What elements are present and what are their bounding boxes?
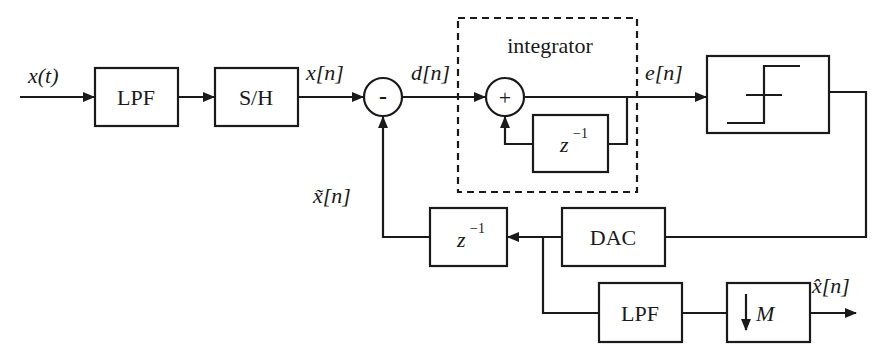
integrator-group: integrator + z −1 bbox=[458, 18, 637, 192]
decimator-block: M bbox=[727, 283, 810, 342]
integrator-delay-block bbox=[533, 115, 608, 172]
lpf-input-block: LPF bbox=[95, 68, 178, 126]
sample-hold-block: S/H bbox=[215, 68, 298, 126]
feedback-delay-base: z bbox=[456, 227, 466, 252]
delta-sigma-diagram: x(t) LPF S/H x[n] - d[n] integrator + z … bbox=[0, 0, 883, 360]
label-x-hat-n: x̂[n] bbox=[811, 273, 850, 298]
dac-label: DAC bbox=[590, 225, 636, 250]
label-d-n: d[n] bbox=[411, 60, 450, 85]
integrator-label: integrator bbox=[507, 33, 593, 58]
lpf-input-label: LPF bbox=[117, 85, 155, 110]
wire-feedback bbox=[383, 117, 430, 237]
subtractor-node: - bbox=[364, 78, 402, 116]
plus-sign: + bbox=[499, 85, 511, 110]
sample-hold-label: S/H bbox=[239, 85, 273, 110]
minus-sign: - bbox=[379, 83, 387, 109]
label-x-tilde-n: x̃[n] bbox=[312, 183, 351, 208]
lpf-output-block: LPF bbox=[599, 283, 682, 342]
integrator-delay-base: z bbox=[559, 132, 569, 157]
label-e-n: e[n] bbox=[645, 60, 683, 85]
lpf-output-label: LPF bbox=[621, 301, 659, 326]
label-x-t: x(t) bbox=[27, 63, 59, 88]
decimation-factor: M bbox=[755, 301, 776, 326]
dac-block: DAC bbox=[562, 208, 665, 266]
label-x-n: x[n] bbox=[305, 60, 344, 85]
quantizer-block bbox=[707, 56, 829, 133]
integrator-delay-exp: −1 bbox=[573, 126, 588, 141]
feedback-delay-block: z −1 bbox=[430, 208, 507, 266]
input-signal: x(t) bbox=[20, 63, 94, 97]
feedback-delay-exp: −1 bbox=[470, 221, 485, 236]
